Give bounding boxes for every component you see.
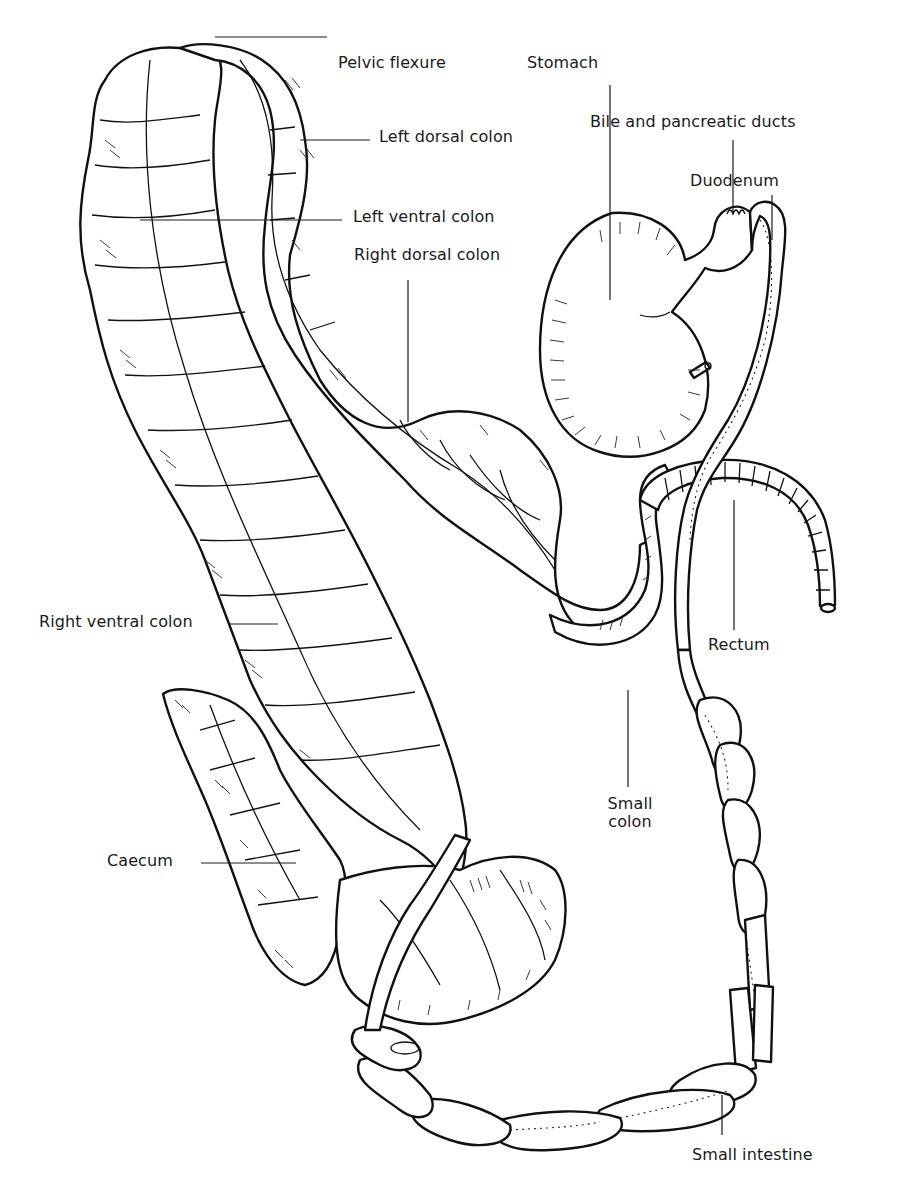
label-bile-pancreatic-ducts: Bile and pancreatic ducts [590, 113, 796, 131]
label-right-dorsal-colon: Right dorsal colon [354, 246, 500, 264]
label-small-colon: Small colon [595, 795, 665, 832]
digestive-tract-diagram: Pelvic flexure Stomach Left dorsal colon… [0, 0, 921, 1202]
caecum-base-mass [336, 835, 565, 1030]
label-right-ventral-colon: Right ventral colon [39, 613, 193, 631]
label-left-dorsal-colon: Left dorsal colon [379, 128, 513, 146]
stomach-shape [540, 207, 752, 457]
label-caecum: Caecum [107, 852, 173, 870]
anatomy-illustration [0, 0, 921, 1202]
label-pelvic-flexure: Pelvic flexure [338, 54, 446, 72]
rectum-shape [640, 460, 835, 612]
label-duodenum: Duodenum [690, 172, 779, 190]
label-small-intestine: Small intestine [692, 1146, 813, 1164]
label-left-ventral-colon: Left ventral colon [353, 208, 495, 226]
label-stomach: Stomach [527, 54, 598, 72]
label-rectum: Rectum [708, 636, 770, 654]
